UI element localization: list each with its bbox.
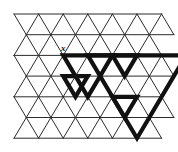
figure-container: x [0,0,178,152]
triangular-lattice-figure [0,0,178,152]
point-label-x: x [61,44,66,53]
